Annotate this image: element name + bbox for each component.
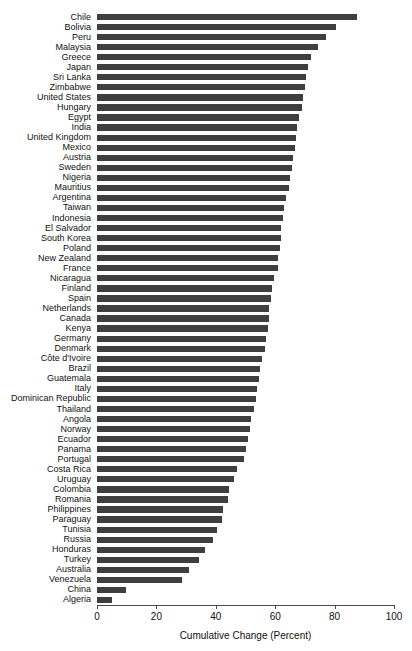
bar-row [97, 597, 394, 603]
bar-row [97, 346, 394, 352]
bar [97, 506, 223, 512]
bar-row [97, 195, 394, 201]
category-label: Côte d'Ivoire [41, 354, 91, 363]
bar [97, 436, 248, 442]
bar-row [97, 416, 394, 422]
bar [97, 446, 246, 452]
bar-row [97, 255, 394, 261]
bar [97, 547, 205, 553]
category-label: Philippines [47, 505, 91, 514]
bar [97, 124, 297, 130]
category-label: France [63, 264, 91, 273]
bar [97, 215, 283, 221]
bar [97, 185, 289, 191]
bar-row [97, 54, 394, 60]
bar [97, 597, 112, 603]
category-label: United Kingdom [27, 133, 91, 142]
bar-row [97, 336, 394, 342]
bar-row [97, 114, 394, 120]
category-label: Honduras [52, 545, 91, 554]
x-tick-mark [335, 605, 336, 609]
bar-row [97, 34, 394, 40]
category-label: Ecuador [57, 435, 91, 444]
bar-row [97, 275, 394, 281]
bar [97, 486, 229, 492]
category-label: India [71, 123, 91, 132]
category-label: Dominican Republic [11, 394, 91, 403]
bar [97, 205, 284, 211]
bar-row [97, 135, 394, 141]
bar-row [97, 325, 394, 331]
bar [97, 376, 259, 382]
category-label: Algeria [63, 595, 91, 604]
category-label: Mexico [62, 143, 91, 152]
category-label: Chile [70, 13, 91, 22]
bar-row [97, 537, 394, 543]
bar-row [97, 557, 394, 563]
bar [97, 114, 299, 120]
category-label: Guatemala [47, 374, 91, 383]
bar-row [97, 366, 394, 372]
bar [97, 496, 228, 502]
bar-row [97, 587, 394, 593]
bar [97, 577, 182, 583]
horizontal-bar-chart: ChileBoliviaPeruMalaysiaGreeceJapanSri L… [0, 0, 412, 651]
category-label: Malaysia [55, 43, 91, 52]
category-label: South Korea [41, 234, 91, 243]
category-label: Argentina [52, 193, 91, 202]
category-label: Uruguay [57, 475, 91, 484]
bar-row [97, 486, 394, 492]
bar-row [97, 496, 394, 502]
x-tick-label: 40 [210, 611, 221, 622]
category-label: Poland [63, 244, 91, 253]
x-tick-label: 100 [386, 611, 403, 622]
category-label: United States [37, 93, 91, 102]
bar [97, 44, 318, 50]
x-tick-label: 0 [94, 611, 100, 622]
bar-row [97, 185, 394, 191]
bar [97, 14, 357, 20]
bar-row [97, 165, 394, 171]
category-label: Peru [72, 33, 91, 42]
x-tick-label: 80 [329, 611, 340, 622]
bar [97, 426, 250, 432]
category-label: Greece [61, 53, 91, 62]
bar-row [97, 265, 394, 271]
bar [97, 366, 260, 372]
bar-row [97, 516, 394, 522]
bar-row [97, 215, 394, 221]
bar [97, 386, 257, 392]
category-label: Russia [63, 535, 91, 544]
bar [97, 466, 237, 472]
bar-row [97, 506, 394, 512]
bar [97, 34, 326, 40]
bar-row [97, 295, 394, 301]
category-label: Mauritius [54, 183, 91, 192]
bar-row [97, 235, 394, 241]
bar-row [97, 547, 394, 553]
bar [97, 325, 268, 331]
x-tick-mark [216, 605, 217, 609]
category-label: Nigeria [62, 173, 91, 182]
category-label: Germany [54, 334, 91, 343]
bar-row [97, 305, 394, 311]
plot-area [97, 12, 394, 605]
bar-row [97, 456, 394, 462]
bar [97, 396, 256, 402]
category-label: Egypt [68, 113, 91, 122]
category-label: Indonesia [52, 214, 91, 223]
bar [97, 295, 271, 301]
x-axis-line [97, 605, 394, 606]
category-label: Sri Lanka [53, 73, 91, 82]
x-tick-mark [394, 605, 395, 609]
bar-row [97, 446, 394, 452]
category-label: El Salvador [45, 224, 91, 233]
bar-row [97, 155, 394, 161]
bar [97, 135, 296, 141]
bar-row [97, 285, 394, 291]
category-label: Spain [68, 294, 91, 303]
bar-row [97, 577, 394, 583]
category-label: Angola [63, 415, 91, 424]
category-label: Norway [60, 425, 91, 434]
category-label: Bolivia [64, 23, 91, 32]
